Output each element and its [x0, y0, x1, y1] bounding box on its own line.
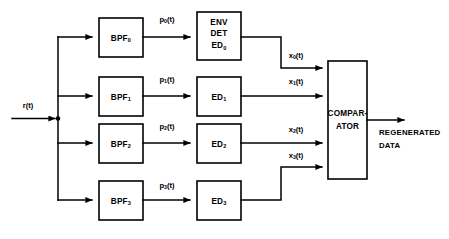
x0-wire — [241, 37, 322, 68]
branch-0: BPF0 p0(t) ENV DET ED0 x0(t) — [58, 12, 322, 68]
splitter-bus — [56, 37, 61, 200]
diagram-canvas: r(t) BPF0 p0(t) ENV DET ED0 — [0, 0, 449, 239]
x0-label: x0(t) — [289, 51, 304, 61]
branch-3: BPF3 p3(t) ED3 x3(t) — [58, 151, 322, 220]
branch-1: BPF1 p1(t) ED1 x1(t) — [58, 75, 322, 116]
p3-label: p3(t) — [159, 181, 175, 191]
output-group: REGENERATED DATA — [367, 120, 441, 150]
p1-label: p1(t) — [159, 75, 175, 85]
branch-2: BPF2 p2(t) ED2 x2(t) — [58, 122, 322, 163]
x1-label: x1(t) — [289, 77, 304, 87]
output-label-line2: DATA — [379, 141, 400, 150]
input-signal-group: r(t) — [12, 101, 55, 119]
comparator-label-line1: COMPAR- — [328, 109, 368, 118]
x3-wire — [241, 167, 322, 200]
x2-label: x2(t) — [289, 125, 304, 135]
comparator-block[interactable] — [328, 61, 367, 179]
x3-label: x3(t) — [289, 151, 304, 161]
output-label-line1: REGENERATED — [379, 128, 441, 137]
comparator-group: COMPAR- ATOR — [328, 61, 368, 179]
p0-label: p0(t) — [159, 15, 175, 25]
input-label: r(t) — [23, 101, 34, 110]
block-diagram: r(t) BPF0 p0(t) ENV DET ED0 — [0, 0, 449, 239]
env-det-0-line1: ENV — [210, 18, 228, 27]
env-det-0-line2: DET — [211, 29, 228, 38]
junction-dot — [56, 116, 61, 121]
p2-label: p2(t) — [159, 122, 175, 132]
comparator-label-line2: ATOR — [336, 122, 359, 131]
